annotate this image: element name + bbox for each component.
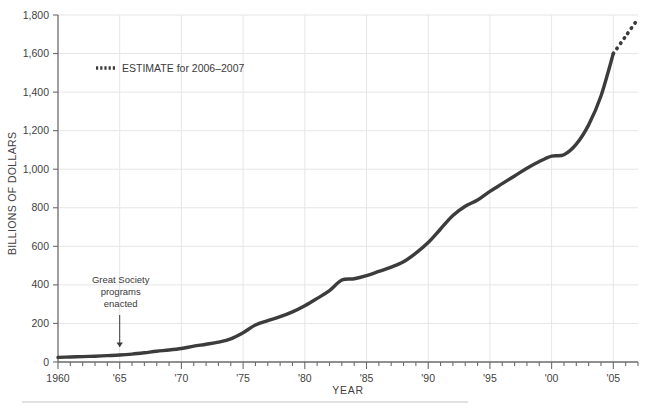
x-tick-label: 1960	[46, 372, 70, 384]
y-tick-label: 1,000	[23, 163, 49, 175]
y-tick-label: 400	[31, 278, 49, 290]
x-tick-label: '80	[298, 372, 312, 384]
y-axis-title: BILLIONS OF DOLLARS	[6, 132, 18, 255]
legend-label: ESTIMATE for 2006–2007	[122, 62, 245, 74]
y-tick-label: 1,400	[23, 86, 49, 98]
spending-line-chart: 02004006008001,0001,2001,4001,6001,800 1…	[0, 0, 646, 408]
x-tick-label: '00	[545, 372, 559, 384]
y-tick-label: 0	[43, 356, 49, 368]
x-tick-label: '05	[606, 372, 620, 384]
x-tick-label: '65	[113, 372, 127, 384]
x-tick-label: '95	[483, 372, 497, 384]
annotation-line: enacted	[104, 298, 138, 309]
y-tick-label: 200	[31, 317, 49, 329]
x-tick-label: '70	[175, 372, 189, 384]
y-tick-label: 1,600	[23, 47, 49, 59]
annotation-line: programs	[101, 286, 141, 297]
y-tick-label: 1,800	[23, 9, 49, 21]
x-axis-title: YEAR	[332, 384, 363, 396]
annotation-line: Great Society	[92, 274, 150, 285]
x-tick-label: '75	[236, 372, 250, 384]
chart-container: 02004006008001,0001,2001,4001,6001,800 1…	[0, 0, 646, 408]
x-tick-label: '90	[421, 372, 435, 384]
y-tick-label: 1,200	[23, 124, 49, 136]
y-tick-label: 600	[31, 240, 49, 252]
chart-background	[0, 0, 646, 408]
y-tick-label: 800	[31, 201, 49, 213]
x-tick-label: '85	[360, 372, 374, 384]
